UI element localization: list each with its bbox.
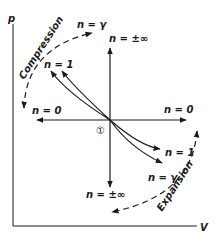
n-0-right-label: n = 0: [164, 104, 193, 115]
n-gamma-up-label: n = γ: [77, 19, 107, 30]
compression-label: Compression: [16, 14, 65, 81]
compression-arc: [24, 33, 92, 108]
p-axis-label: p: [7, 13, 15, 24]
n-0-left-label: n = 0: [32, 105, 61, 116]
n-1-down-curve: [110, 120, 160, 149]
n-1-up-label: n = 1: [44, 59, 73, 70]
expansion-label: Expansion: [154, 159, 195, 213]
n-gamma-up-curve: [62, 71, 110, 120]
n-gamma-down-label: n = γ: [148, 172, 178, 183]
state-1-marker: ①: [96, 125, 105, 136]
n-1-down-label: n = 1: [165, 147, 194, 158]
pv-diagram: p V Compression Expansion n = ±∞ n = ±∞ …: [0, 0, 218, 241]
v-axis-label: V: [200, 222, 209, 233]
n-inf-down-label: n = ±∞: [86, 189, 125, 200]
n-inf-up-label: n = ±∞: [109, 33, 148, 44]
